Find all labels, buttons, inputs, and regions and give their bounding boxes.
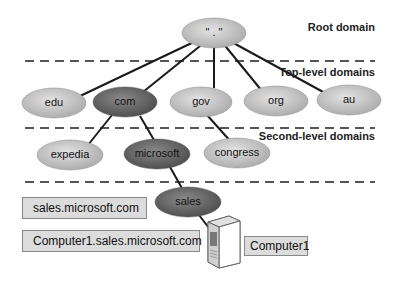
level-label-tld: Top-level domains <box>279 66 375 78</box>
server-computer-icon[interactable] <box>208 216 240 268</box>
tld-node-edu[interactable]: edu <box>22 88 86 118</box>
computer-name-box: Computer1 <box>244 236 308 256</box>
fqdn-domain-label: sales.microsoft.com <box>33 201 139 215</box>
root-node-label: " . " <box>206 26 223 38</box>
subdomain-label: sales <box>175 195 201 207</box>
sld-node-microsoft[interactable]: microsoft <box>124 139 190 169</box>
fqdn-domain-box: sales.microsoft.com <box>22 197 147 219</box>
tld-node-org[interactable]: org <box>244 86 308 116</box>
tld-node-gov[interactable]: gov <box>170 87 232 117</box>
tld-label: gov <box>192 95 210 107</box>
fqdn-host-label: Computer1.sales.microsoft.com <box>33 234 202 248</box>
subdomain-node-sales[interactable]: sales <box>155 187 221 217</box>
tld-label: au <box>343 93 355 105</box>
sld-label: microsoft <box>135 147 180 159</box>
sld-label: congress <box>215 146 260 158</box>
tld-label: com <box>115 95 136 107</box>
tld-node-com[interactable]: com <box>93 87 157 117</box>
sld-node-congress[interactable]: congress <box>204 138 270 168</box>
fqdn-host-box: Computer1.sales.microsoft.com <box>22 230 200 252</box>
computer-name-label: Computer1 <box>250 239 309 253</box>
tld-label: org <box>268 94 284 106</box>
tld-label: edu <box>45 96 63 108</box>
level-label-root: Root domain <box>308 21 375 33</box>
tld-node-au[interactable]: au <box>317 85 381 115</box>
sld-node-expedia[interactable]: expedia <box>37 140 103 170</box>
level-label-sld: Second-level domains <box>259 130 375 142</box>
root-node[interactable]: " . " <box>182 18 246 48</box>
sld-label: expedia <box>51 148 90 160</box>
